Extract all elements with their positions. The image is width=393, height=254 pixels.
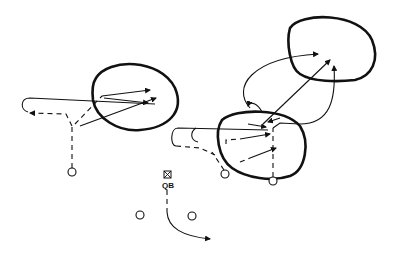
left-back-player <box>68 168 76 176</box>
right-deep-zone <box>288 17 375 81</box>
back-right-of-qb <box>188 212 196 220</box>
back-left-of-qb <box>136 211 144 219</box>
deep-curve-right <box>300 66 334 124</box>
play-diagram: QB <box>0 0 393 254</box>
right-receiver-2 <box>269 177 277 185</box>
right-dashed-return <box>176 146 215 155</box>
qb-marker <box>164 171 171 178</box>
right-underneath-dash <box>226 139 240 144</box>
right-receiver-1 <box>221 170 229 178</box>
right-underneath-zone <box>218 112 306 179</box>
right-underneath-dash-2 <box>240 158 250 162</box>
left-zone <box>92 64 177 130</box>
left-arrow-1 <box>102 90 150 96</box>
qb-label: QB <box>162 181 174 190</box>
right-underneath-arrow-2 <box>250 148 276 158</box>
right-stem-break <box>273 123 300 128</box>
short-right-arrow <box>268 118 280 122</box>
right-hook <box>192 128 198 142</box>
left-dashed-curl <box>30 113 72 126</box>
right-underneath-arrow-1 <box>240 134 270 139</box>
deep-curve-left <box>243 54 318 108</box>
right-arrow-in-zone <box>248 124 266 127</box>
